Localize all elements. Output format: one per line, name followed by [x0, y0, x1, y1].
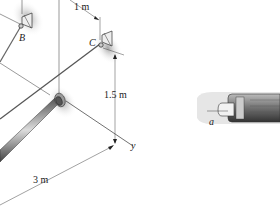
dim-3m-label: 3 m [33, 175, 48, 185]
wall-edge-mid [0, 63, 50, 95]
dim-1m-label: 1 m [74, 2, 89, 12]
dim-vertical-arrow-bottom [113, 139, 117, 144]
point-a-label: a [209, 117, 214, 127]
dim-3m-line [0, 146, 113, 205]
dim-vertical-label: 1.5 m [104, 90, 127, 100]
y-axis [66, 101, 133, 146]
dim-1m-arrow [94, 16, 99, 20]
point-b-label: B [19, 33, 25, 43]
rod [0, 98, 58, 162]
y-axis-label: y [131, 141, 135, 151]
point-c-label: C [89, 38, 96, 48]
cable-b [0, 26, 21, 62]
dim-3m-arrow [108, 145, 114, 150]
